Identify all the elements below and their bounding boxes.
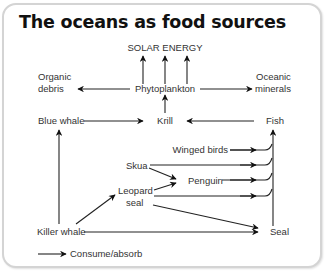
node-killer-whale: Killer whale	[37, 226, 86, 237]
node-leopard-seal-line2: seal	[126, 197, 143, 208]
food-web-diagram: SOLAR ENERGY Organic debris Phytoplankto…	[0, 0, 325, 271]
node-leopard-seal: Leopard	[118, 185, 153, 196]
node-organic-debris: Organic	[38, 71, 72, 82]
node-solar-energy: SOLAR ENERGY	[128, 42, 204, 53]
node-fish: Fish	[266, 115, 284, 126]
node-phytoplankton: Phytoplankton	[135, 83, 195, 94]
node-krill: Krill	[157, 115, 173, 126]
legend: Consume/absorb	[38, 248, 142, 259]
node-oceanic-minerals: Oceanic	[256, 71, 291, 82]
node-penguin: Penguin	[188, 175, 223, 186]
node-oceanic-minerals-line2: minerals	[255, 83, 291, 94]
node-seal: Seal	[270, 226, 289, 237]
node-winged-birds: Winged birds	[173, 144, 229, 155]
node-blue-whale: Blue whale	[38, 115, 84, 126]
node-organic-debris-line2: debris	[38, 83, 64, 94]
node-skua: Skua	[126, 160, 148, 171]
legend-label: Consume/absorb	[70, 248, 142, 259]
